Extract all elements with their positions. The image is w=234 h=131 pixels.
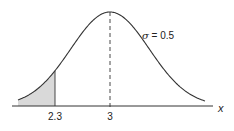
x-tick-label: 3 bbox=[107, 111, 113, 122]
sigma-label: σ = 0.5 bbox=[142, 30, 175, 41]
chart-svg: σ = 0.5 2.3 3 x bbox=[0, 0, 234, 131]
normal-distribution-chart: σ = 0.5 2.3 3 x bbox=[0, 0, 234, 131]
x-axis-label: x bbox=[217, 102, 224, 114]
shaded-tail-area bbox=[18, 71, 55, 106]
x-tick-label: 2.3 bbox=[48, 111, 62, 122]
